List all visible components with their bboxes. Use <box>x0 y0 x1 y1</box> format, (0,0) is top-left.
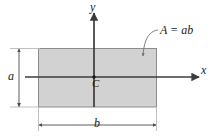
height-dimension-label: a <box>8 70 14 82</box>
centroid-rectangle-figure: y x C a b A = ab <box>0 0 212 137</box>
y-axis-label: y <box>90 1 95 13</box>
width-dimension-label: b <box>94 117 100 129</box>
x-axis-label: x <box>201 64 206 76</box>
figure-canvas <box>0 0 212 137</box>
centroid-label: C <box>92 78 99 89</box>
area-formula-label: A = ab <box>160 24 193 36</box>
